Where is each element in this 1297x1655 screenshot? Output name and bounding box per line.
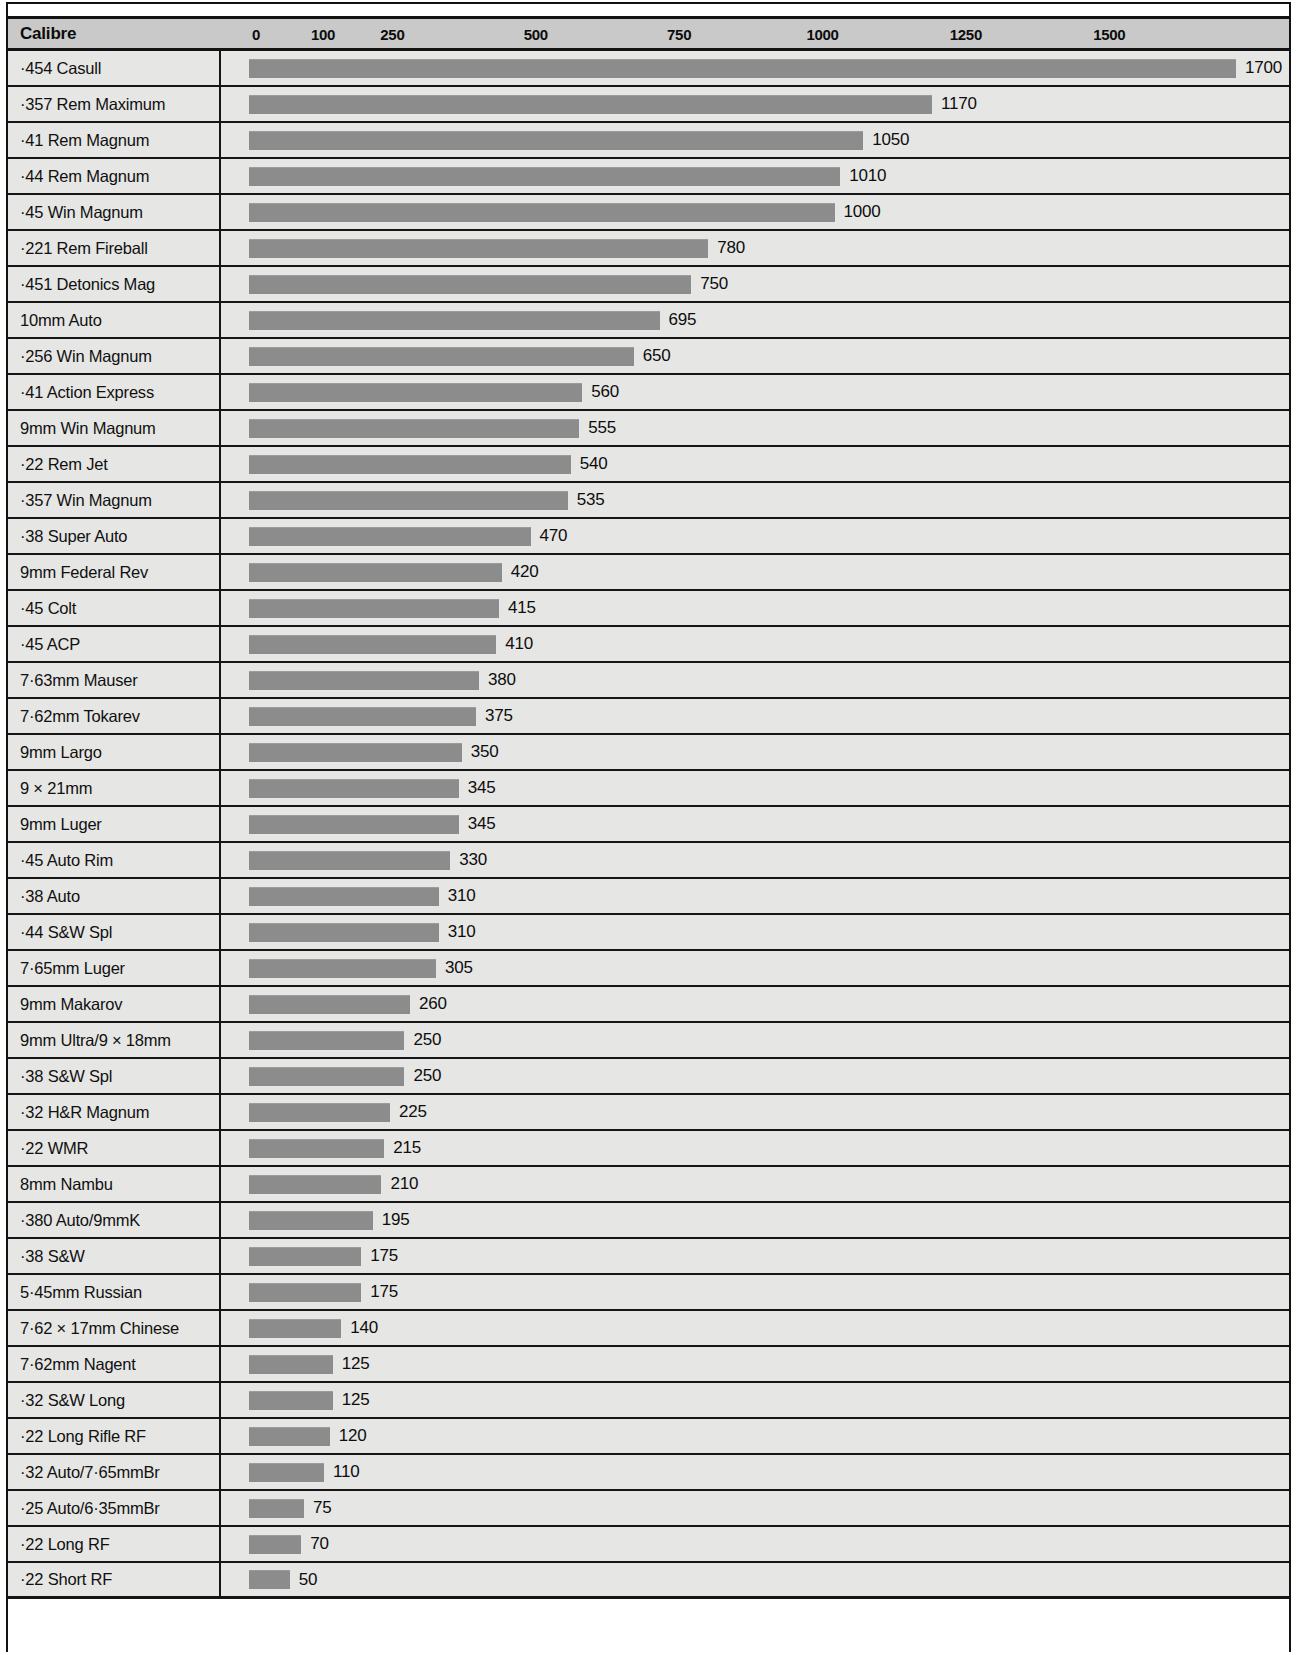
bar (249, 563, 502, 582)
table-row: ·256 Win Magnum650 (8, 339, 1289, 375)
bar-group: 1000 (249, 195, 881, 229)
bar (249, 275, 691, 294)
bar (249, 1463, 324, 1482)
bar-value-label: 70 (310, 1534, 329, 1554)
row-label-calibre: 10mm Auto (8, 303, 221, 337)
bar-group: 535 (249, 483, 605, 517)
bar (249, 1499, 304, 1518)
bar-group: 750 (249, 267, 728, 301)
bar (249, 1535, 301, 1554)
table-row: ·32 S&W Long125 (8, 1383, 1289, 1419)
bar-value-label: 175 (370, 1282, 398, 1302)
row-label-calibre: 8mm Nambu (8, 1167, 221, 1201)
bar-group: 420 (249, 555, 539, 589)
row-plot-area: 1050 (221, 123, 1289, 157)
bar-value-label: 125 (342, 1390, 370, 1410)
table-row: 7·62mm Tokarev375 (8, 699, 1289, 735)
table-row: ·45 Colt415 (8, 591, 1289, 627)
bar-value-label: 1010 (849, 166, 886, 186)
bar-group: 310 (249, 879, 476, 913)
bar-value-label: 215 (393, 1138, 421, 1158)
row-label-calibre: ·256 Win Magnum (8, 339, 221, 373)
bar-value-label: 175 (370, 1246, 398, 1266)
table-row: ·22 Long Rifle RF120 (8, 1419, 1289, 1455)
row-plot-area: 310 (221, 915, 1289, 949)
bar (249, 1247, 361, 1266)
table-row: ·41 Rem Magnum1050 (8, 123, 1289, 159)
x-axis-tick-labels: 0100250500750100012501500 (221, 19, 1289, 48)
bar-value-label: 75 (313, 1498, 332, 1518)
table-row: 5·45mm Russian175 (8, 1275, 1289, 1311)
row-plot-area: 535 (221, 483, 1289, 517)
table-row: ·22 Long RF70 (8, 1527, 1289, 1563)
row-plot-area: 260 (221, 987, 1289, 1021)
table-row: 8mm Nambu210 (8, 1167, 1289, 1203)
row-label-calibre: ·221 Rem Fireball (8, 231, 221, 265)
row-plot-area: 1000 (221, 195, 1289, 229)
row-plot-area: 120 (221, 1419, 1289, 1453)
row-label-calibre: ·38 S&W Spl (8, 1059, 221, 1093)
bar (249, 599, 499, 618)
table-row: 9 × 21mm345 (8, 771, 1289, 807)
row-plot-area: 695 (221, 303, 1289, 337)
bar-group: 175 (249, 1239, 398, 1273)
bar (249, 527, 531, 546)
table-row: ·44 Rem Magnum1010 (8, 159, 1289, 195)
row-label-calibre: ·22 WMR (8, 1131, 221, 1165)
bar-group: 250 (249, 1059, 441, 1093)
bar-value-label: 330 (459, 850, 487, 870)
bar-value-label: 695 (669, 310, 697, 330)
bar-group: 195 (249, 1203, 410, 1237)
bar-value-label: 120 (339, 1426, 367, 1446)
table-row: 7·62mm Nagent125 (8, 1347, 1289, 1383)
table-row: ·357 Win Magnum535 (8, 483, 1289, 519)
bar-value-label: 650 (643, 346, 671, 366)
bar-group: 125 (249, 1383, 369, 1417)
x-tick-1250: 1250 (950, 25, 982, 42)
row-label-calibre: ·22 Short RF (8, 1563, 221, 1596)
bar-group: 415 (249, 591, 536, 625)
bar-value-label: 345 (468, 778, 496, 798)
bar-group: 50 (249, 1563, 317, 1596)
bar (249, 779, 459, 798)
table-row: 9mm Federal Rev420 (8, 555, 1289, 591)
row-plot-area: 350 (221, 735, 1289, 769)
bar-group: 70 (249, 1527, 329, 1561)
table-row: ·32 H&R Magnum225 (8, 1095, 1289, 1131)
row-plot-area: 415 (221, 591, 1289, 625)
row-label-calibre: ·357 Win Magnum (8, 483, 221, 517)
table-row: ·22 Short RF50 (8, 1563, 1289, 1599)
bar (249, 887, 439, 906)
table-row: 7·62 × 17mm Chinese140 (8, 1311, 1289, 1347)
bar (249, 1031, 404, 1050)
row-label-calibre: ·451 Detonics Mag (8, 267, 221, 301)
table-row: 9mm Makarov260 (8, 987, 1289, 1023)
bar-group: 310 (249, 915, 476, 949)
bar-group: 470 (249, 519, 567, 553)
bar (249, 95, 932, 114)
table-row: ·38 Auto310 (8, 879, 1289, 915)
bar (249, 815, 459, 834)
row-plot-area: 125 (221, 1347, 1289, 1381)
row-label-calibre: ·44 S&W Spl (8, 915, 221, 949)
bar-group: 175 (249, 1275, 398, 1309)
bar-group: 110 (249, 1455, 360, 1489)
bar-value-label: 345 (468, 814, 496, 834)
bar-value-label: 310 (448, 922, 476, 942)
bar-group: 410 (249, 627, 533, 661)
bar-chart-page: Calibre 0100250500750100012501500 ·454 C… (0, 0, 1297, 1655)
row-label-calibre: ·38 S&W (8, 1239, 221, 1273)
row-label-calibre: ·32 S&W Long (8, 1383, 221, 1417)
bar-value-label: 110 (333, 1462, 360, 1482)
bar-value-label: 250 (413, 1030, 441, 1050)
bar-value-label: 310 (448, 886, 476, 906)
bar-value-label: 555 (588, 418, 616, 438)
bar-group: 1050 (249, 123, 909, 157)
bar-value-label: 250 (413, 1066, 441, 1086)
bar-group: 560 (249, 375, 619, 409)
bar-value-label: 410 (505, 634, 533, 654)
row-plot-area: 1010 (221, 159, 1289, 193)
bar-group: 695 (249, 303, 696, 337)
row-label-calibre: ·38 Super Auto (8, 519, 221, 553)
row-label-calibre: 7·63mm Mauser (8, 663, 221, 697)
